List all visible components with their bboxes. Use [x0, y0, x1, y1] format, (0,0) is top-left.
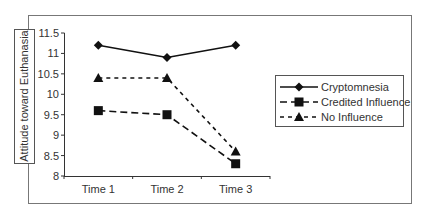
- legend: CryptomnesiaCredited InfluenceNo Influen…: [276, 76, 411, 127]
- diamond-marker: [163, 53, 172, 62]
- y-axis-label: Attitude toward Euthanasia: [18, 29, 30, 161]
- series-credited-influence: [94, 106, 240, 168]
- x-tick-label: Time 1: [82, 183, 115, 195]
- square-marker: [163, 110, 172, 119]
- legend-label: Cryptomnesia: [321, 81, 390, 93]
- series-cryptomnesia: [94, 41, 240, 62]
- diamond-marker: [94, 41, 103, 50]
- diamond-marker: [231, 41, 240, 50]
- legend-item: Credited Influence: [280, 96, 410, 108]
- y-tick-label: 8.5: [44, 150, 59, 162]
- square-marker: [295, 98, 304, 107]
- y-tick-label: 9: [53, 129, 59, 141]
- y-tick-label: 8: [53, 170, 59, 182]
- y-tick-label: 10.5: [38, 68, 59, 80]
- y-tick-label: 10: [47, 88, 59, 100]
- square-marker: [94, 106, 103, 115]
- y-tick-label: 9.5: [44, 109, 59, 121]
- x-tick-label: Time 2: [150, 183, 183, 195]
- x-axis: Time 1Time 2Time 3: [64, 176, 270, 195]
- y-axis: 11.51110.5109.598.58: [38, 27, 65, 182]
- line-chart: Attitude toward Euthanasia 11.51110.5109…: [0, 0, 425, 218]
- x-tick-label: Time 3: [219, 183, 252, 195]
- plot-series: [93, 41, 240, 168]
- square-marker: [231, 159, 240, 168]
- y-tick-label: 11: [48, 47, 59, 59]
- y-axis-title: Attitude toward Euthanasia: [15, 29, 35, 163]
- y-tick-label: 11.5: [38, 27, 59, 39]
- triangle-marker: [231, 146, 241, 155]
- legend-label: Credited Influence: [321, 96, 410, 108]
- legend-label: No Influence: [321, 111, 383, 123]
